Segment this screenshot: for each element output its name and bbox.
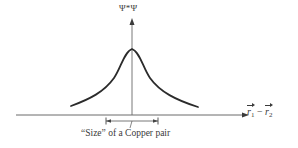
size-bracket	[106, 118, 158, 129]
y-axis-label: Ψ*Ψ	[119, 3, 137, 13]
y-axis	[130, 18, 135, 115]
pair-wavefunction-diagram	[0, 0, 298, 148]
minus-sign: −	[254, 106, 265, 117]
bracket-left-arrow-icon	[106, 119, 111, 122]
r2-vector: r	[265, 106, 269, 117]
y-axis-arrowhead-icon	[130, 18, 135, 25]
size-annotation-label: “Size” of a Copper pair	[81, 128, 170, 138]
x-axis	[16, 113, 249, 118]
r2-subscript: 2	[269, 111, 273, 119]
probability-curve	[71, 49, 198, 107]
x-axis-label: r1 − r2	[247, 106, 272, 119]
label-leader-line	[130, 121, 132, 128]
bracket-right-arrow-icon	[153, 119, 158, 122]
r1-vector: r	[247, 106, 251, 117]
